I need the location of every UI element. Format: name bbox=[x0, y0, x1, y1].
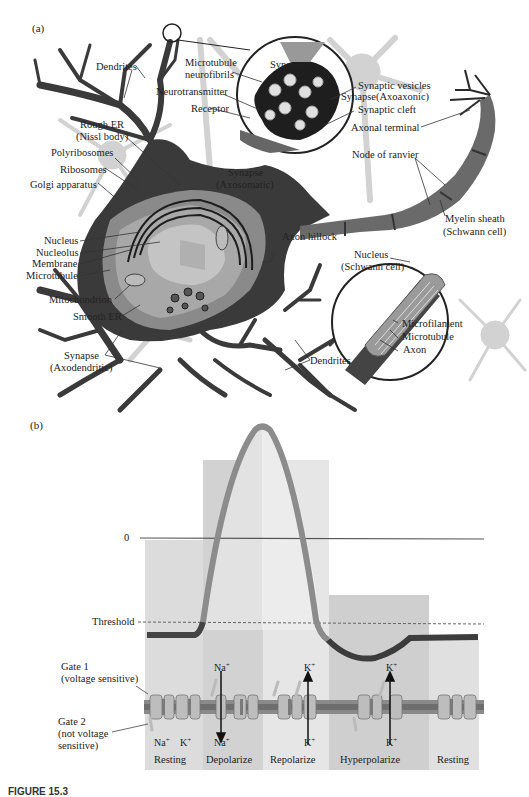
zero-line bbox=[140, 538, 484, 539]
ion-k-repolarize-out: K+ bbox=[304, 661, 315, 673]
phase-hyperpolarize: Hyperpolarize bbox=[340, 754, 400, 765]
phase-repolarize: Repolarize bbox=[270, 754, 315, 765]
ion-na-depolarize-in: Na+ bbox=[214, 736, 230, 748]
ion-na-depolarize-out: Na+ bbox=[214, 661, 230, 673]
label-gate2-desc-2: sensitive) bbox=[58, 740, 98, 751]
phase-resting-1: Resting bbox=[154, 754, 186, 765]
label-gate1: Gate 1 bbox=[61, 661, 89, 672]
ion-na-resting: Na+ bbox=[154, 736, 170, 748]
threshold-label: Threshold bbox=[92, 616, 135, 627]
zero-label: 0 bbox=[124, 532, 129, 543]
figure-caption: FIGURE 15.3 bbox=[8, 786, 68, 797]
label-gate2-desc: (not voltage bbox=[58, 728, 108, 739]
ion-k-hyperpolarize-in: K+ bbox=[386, 736, 397, 748]
ion-k-repolarize-in: K+ bbox=[304, 736, 315, 748]
ion-k-resting: K+ bbox=[180, 736, 191, 748]
ion-k-hyperpolarize-out: K+ bbox=[386, 661, 397, 673]
phase-resting-2: Resting bbox=[437, 754, 469, 765]
label-gate2: Gate 2 bbox=[58, 716, 86, 727]
phase-depolarize: Depolarize bbox=[206, 754, 252, 765]
label-gate1-desc: (voltage sensitive) bbox=[61, 673, 138, 684]
